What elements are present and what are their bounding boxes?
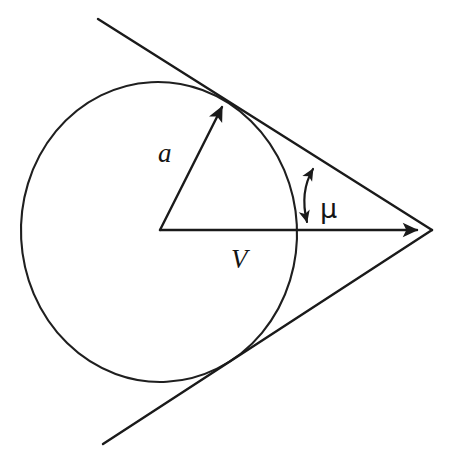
radius-vector-a-arrow	[160, 107, 222, 230]
mach-angle-arc-group	[305, 169, 313, 222]
lower-tangent-line	[103, 230, 432, 444]
mach-angle-arc	[305, 169, 313, 222]
lower-tangent-group	[103, 230, 432, 444]
radius-vector-group	[160, 107, 222, 230]
upper-tangent-group	[98, 19, 432, 230]
diagram-canvas: a V μ	[0, 0, 454, 459]
label-mach-angle-mu: μ	[320, 193, 337, 224]
label-velocity-v: V	[231, 244, 251, 274]
upper-tangent-line	[98, 19, 432, 230]
mach-cone-diagram: a V μ	[0, 0, 454, 459]
label-radius-a: a	[158, 138, 172, 168]
